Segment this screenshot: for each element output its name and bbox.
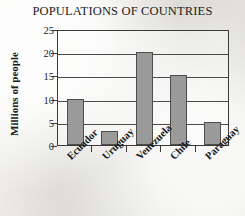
y-tick-mark [51,30,57,31]
y-axis-tick-labels: 0510152025 [30,30,54,146]
y-axis-title: Millions of people [8,39,20,149]
y-tick-mark [51,100,57,101]
plot-area [57,30,229,146]
y-tick-mark [51,76,57,77]
x-tick-mark [126,146,127,152]
x-tick-mark [91,146,92,152]
chart-title: POPULATIONS OF COUNTRIES [0,4,245,19]
x-tick-mark [160,146,161,152]
y-tick-mark [51,146,57,147]
bar [136,52,153,145]
x-tick-mark [195,146,196,152]
y-tick-mark [51,123,57,124]
y-tick-mark [51,53,57,54]
bar [170,75,187,145]
chart-page: POPULATIONS OF COUNTRIES Millions of peo… [0,0,245,216]
